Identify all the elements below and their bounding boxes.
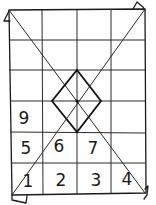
cell-number: 2 (56, 170, 67, 190)
center-dot (76, 100, 79, 103)
cell-numbers: 9 5 6 7 1 2 3 4 (19, 108, 133, 191)
grid-diagram: 9 5 6 7 1 2 3 4 (0, 0, 156, 205)
cell-number: 4 (122, 169, 133, 189)
cell-number: 5 (21, 138, 32, 158)
flap-bottom-left (12, 195, 27, 203)
diagonal-tr-bl (12, 9, 145, 195)
cell-number: 6 (54, 136, 65, 156)
cell-number: 9 (19, 108, 30, 128)
cell-number: 1 (23, 171, 34, 191)
cell-number: 7 (88, 138, 99, 158)
cell-number: 3 (91, 170, 102, 190)
